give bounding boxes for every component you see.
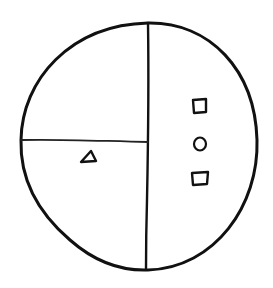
horizontal-divider [21, 140, 148, 142]
diagram-canvas [0, 0, 273, 288]
vertical-divider [146, 23, 148, 269]
partitioned-circle-diagram [0, 0, 273, 288]
square-shape-top [193, 99, 206, 113]
triangle-shape [81, 151, 96, 162]
square-shape-bottom [192, 172, 208, 185]
circle-shape [194, 138, 206, 151]
outer-circle [21, 23, 257, 270]
